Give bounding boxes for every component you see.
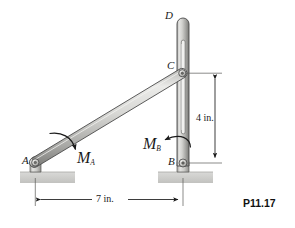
- pin-b: [179, 159, 187, 167]
- ground-support-left: [20, 172, 75, 183]
- moment-label-ma-subscript: A: [90, 158, 95, 167]
- moment-label-ma-text: M: [77, 149, 90, 166]
- ground-support-right: [158, 172, 213, 183]
- figure-p11-17: [0, 0, 295, 228]
- point-label-a: A: [22, 155, 29, 166]
- moment-label-mb-subscript: B: [156, 144, 161, 153]
- moment-label-mb: MB: [143, 136, 161, 153]
- point-label-b: B: [168, 156, 175, 167]
- point-label-c: C: [167, 60, 174, 71]
- slotted-bar-bd: [177, 18, 189, 166]
- dimension-label-vertical: 4 in.: [196, 113, 214, 123]
- figure-tag: P11.17: [243, 197, 276, 209]
- pin-c-slider: [179, 70, 186, 77]
- pin-a: [32, 159, 39, 166]
- moment-label-ma: MA: [77, 150, 95, 167]
- moment-label-mb-text: M: [143, 135, 156, 152]
- inclined-bar-ac: [29, 68, 187, 167]
- point-label-d: D: [165, 10, 173, 21]
- dimension-label-horizontal: 7 in.: [96, 194, 114, 204]
